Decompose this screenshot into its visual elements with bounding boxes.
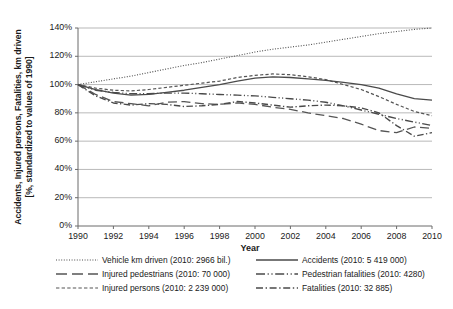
legend-left-column: Vehicle km driven (2010: 2966 bil.) Inju… (56, 253, 231, 295)
legend-swatch-injured-persons (56, 283, 98, 293)
y-tick-label: 120% (36, 50, 72, 60)
legend-item[interactable]: Vehicle km driven (2010: 2966 bil.) (56, 253, 231, 267)
x-axis-title: Year (215, 243, 285, 253)
y-tick-label: 140% (36, 22, 72, 32)
x-tick-label: 1990 (58, 231, 98, 241)
x-tick-label: 2010 (412, 231, 452, 241)
legend-label: Fatalities (2010: 32 885) (302, 283, 392, 293)
legend-label: Injured persons (2010: 2 239 000) (102, 283, 228, 293)
y-tick-label: 40% (36, 163, 72, 173)
x-tick-label: 2004 (306, 231, 346, 241)
series-line (78, 85, 432, 126)
gridlines (75, 28, 432, 226)
series-line (78, 85, 432, 133)
x-tick-label: 1994 (129, 231, 169, 241)
series-line (78, 85, 432, 137)
legend-label: Pedestrian fatalities (2010: 4280) (302, 269, 425, 279)
legend-swatch-accidents (256, 255, 298, 265)
legend-item[interactable]: Injured pedestrians (2010: 70 000) (56, 267, 231, 281)
legend-label: Injured pedestrians (2010: 70 000) (102, 269, 230, 279)
legend-label: Vehicle km driven (2010: 2966 bil.) (102, 255, 231, 265)
x-tick-label: 2006 (341, 231, 381, 241)
y-tick-label: 60% (36, 135, 72, 145)
axis-lines (78, 28, 432, 226)
legend-label: Accidents (2010: 5 419 000) (302, 255, 407, 265)
data-series-group (78, 28, 432, 136)
legend-item[interactable]: Pedestrian fatalities (2010: 4280) (256, 267, 425, 281)
legend-swatch-vehicle-km-driven (56, 255, 98, 265)
legend-item[interactable]: Injured persons (2010: 2 239 000) (56, 281, 231, 295)
legend-item[interactable]: Accidents (2010: 5 419 000) (256, 253, 425, 267)
x-tick-label: 2002 (270, 231, 310, 241)
y-tick-label: 0% (36, 220, 72, 230)
legend-swatch-fatalities (256, 283, 298, 293)
x-tick-label: 1998 (200, 231, 240, 241)
legend-item[interactable]: Fatalities (2010: 32 885) (256, 281, 425, 295)
legend-swatch-injured-pedestrians (56, 269, 98, 279)
y-tick-label: 100% (36, 79, 72, 89)
chart-figure: Accidents, Injured persons, Fatalities, … (0, 0, 453, 309)
y-tick-label: 80% (36, 107, 72, 117)
x-tick-label: 2000 (235, 231, 275, 241)
y-tick-label: 20% (36, 192, 72, 202)
x-tick-label: 1996 (164, 231, 204, 241)
x-tick-label: 1992 (93, 231, 133, 241)
legend-right-column: Accidents (2010: 5 419 000) Pedestrian f… (256, 253, 425, 295)
x-tick-label: 2008 (377, 231, 417, 241)
legend-swatch-pedestrian-fatalities (256, 269, 298, 279)
